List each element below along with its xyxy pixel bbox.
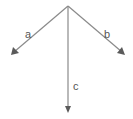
vector-c: c [65,6,79,113]
vector-a-label: a [25,28,32,40]
arrowhead-c-icon [65,106,71,113]
vector-c-label: c [73,80,79,92]
vector-b-line [68,6,122,52]
vector-b-label: b [104,28,110,40]
vector-a: a [11,6,68,55]
vector-b: b [68,6,125,55]
vector-a-line [14,6,68,52]
vector-diagram: a b c [0,0,133,119]
